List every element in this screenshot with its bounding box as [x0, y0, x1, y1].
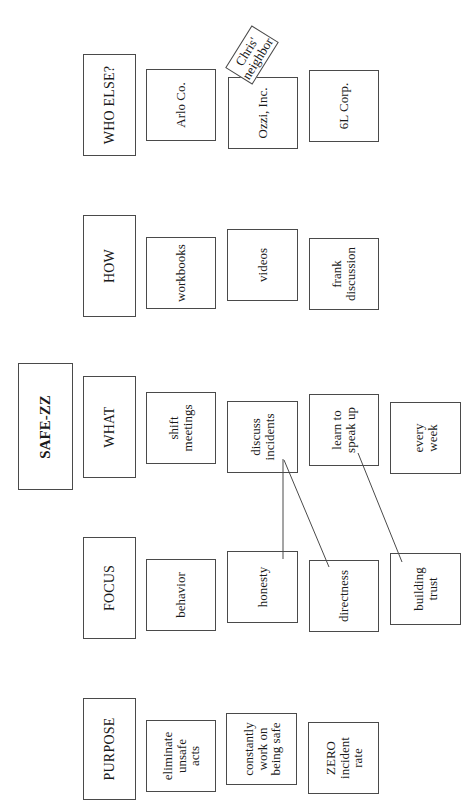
- header-who-else[interactable]: WHO ELSE?: [83, 54, 136, 156]
- card-text: videos: [256, 248, 270, 282]
- card-text: discuss incidents: [249, 414, 276, 461]
- header-label: WHO ELSE?: [102, 66, 117, 144]
- card-every-week[interactable]: every week: [390, 402, 461, 474]
- header-label: FOCUS: [102, 565, 117, 611]
- header-focus[interactable]: FOCUS: [83, 537, 136, 639]
- card-text: workbooks: [174, 244, 188, 302]
- card-eliminate-unsafe-acts[interactable]: eliminate unsafe acts: [146, 720, 216, 792]
- header-label: HOW: [102, 249, 117, 283]
- card-text: directness: [337, 570, 351, 622]
- card-text: Arlo Co.: [174, 82, 188, 128]
- title-text: SAFE-ZZ: [38, 395, 54, 458]
- card-discuss-incidents[interactable]: discuss incidents: [227, 401, 298, 473]
- card-shift-meetings[interactable]: shift meetings: [146, 392, 216, 464]
- card-text: constantly work on being safe: [241, 722, 282, 775]
- card-text: 6L Corp.: [337, 83, 351, 129]
- header-label: PURPOSE: [102, 718, 117, 781]
- card-text: honesty: [256, 567, 270, 607]
- card-learn-to-speak-up[interactable]: learn to speak up: [309, 394, 379, 466]
- card-text: every week: [412, 424, 439, 453]
- title-card[interactable]: SAFE-ZZ: [18, 363, 73, 490]
- card-honesty[interactable]: honesty: [227, 551, 298, 623]
- card-text: eliminate unsafe acts: [161, 732, 202, 780]
- card-constantly-work-on-being-safe[interactable]: constantly work on being safe: [226, 713, 297, 785]
- card-text: shift meetings: [167, 405, 194, 452]
- card-text: building trust: [412, 567, 439, 610]
- card-text: frank discussion: [330, 247, 357, 301]
- header-what[interactable]: WHAT: [83, 376, 136, 478]
- card-zero-incident-rate[interactable]: ZERO incident rate: [308, 722, 379, 794]
- header-label: WHAT: [102, 406, 117, 447]
- card-text: behavior: [174, 572, 188, 617]
- card-ozzi-inc[interactable]: Ozzi, Inc.: [228, 77, 298, 149]
- card-workbooks[interactable]: workbooks: [146, 237, 216, 309]
- header-purpose[interactable]: PURPOSE: [83, 698, 136, 800]
- sticky-note-text: Chris' neighbor: [229, 29, 276, 82]
- card-directness[interactable]: directness: [309, 560, 379, 632]
- card-text: learn to speak up: [330, 407, 357, 453]
- card-building-trust[interactable]: building trust: [390, 553, 461, 625]
- header-how[interactable]: HOW: [83, 215, 136, 317]
- card-frank-discussion[interactable]: frank discussion: [309, 238, 379, 310]
- card-videos[interactable]: videos: [227, 229, 298, 301]
- sticky-note-chris-neighbor[interactable]: Chris' neighbor: [225, 25, 279, 84]
- card-behavior[interactable]: behavior: [146, 559, 216, 631]
- card-text: Ozzi, Inc.: [256, 88, 270, 139]
- card-6l-corp[interactable]: 6L Corp.: [309, 70, 379, 142]
- card-text: ZERO incident rate: [323, 737, 364, 779]
- card-arlo-co[interactable]: Arlo Co.: [146, 69, 216, 141]
